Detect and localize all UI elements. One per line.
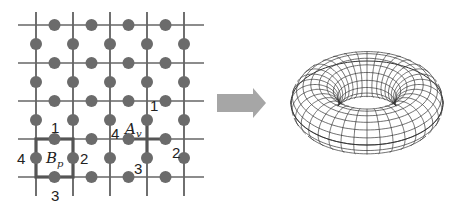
qubit-dot [178,38,190,50]
qubit-dot [141,114,153,126]
qubit-dot [104,38,116,50]
qubit-dot [123,19,135,31]
plaquette-operator-subscript: p [57,158,64,169]
qubit-dot [123,95,135,107]
vertex-label-3: 3 [134,160,142,177]
qubit-dot [86,95,98,107]
qubit-dot [141,152,153,164]
qubit-dot [49,95,61,107]
qubit-dot [49,19,61,31]
plaquette-operator-name: B [45,149,57,167]
torus-mesh-line [393,101,426,141]
qubit-dot [178,114,190,126]
vertex-label-4: 4 [111,125,119,142]
plaquette-label-3: 3 [51,187,59,204]
qubit-dot [160,95,172,107]
qubit-dot [123,171,135,183]
vertex-label-1: 1 [150,97,158,114]
qubit-dot [160,19,172,31]
vertex-label-2: 2 [172,144,180,161]
qubit-dot [141,76,153,88]
qubit-dot [160,133,172,145]
toric-code-diagram: 1 2 3 4 B p 1 2 3 4 A v [0,0,458,210]
qubit-dot [123,57,135,69]
qubit-dot [67,76,79,88]
qubit-dot [30,152,42,164]
qubit-dot [160,57,172,69]
qubit-dot [86,57,98,69]
qubit-dot [67,38,79,50]
qubit-dot [67,152,79,164]
vertex-operator-subscript: v [136,128,142,139]
qubit-dot [49,57,61,69]
plaquette-label-2: 2 [80,150,88,167]
qubit-dot [86,19,98,31]
torus-wireframe [291,52,443,155]
qubit-dot [49,171,61,183]
plaquette-label-4: 4 [17,150,25,167]
plaquette-label-1: 1 [51,119,59,136]
vertex-operator-name: A [123,120,136,138]
qubit-dot [104,76,116,88]
qubit-dot [178,76,190,88]
qubit-dot [30,38,42,50]
qubit-dot [67,114,79,126]
qubit-dot [30,76,42,88]
qubit-dot [86,133,98,145]
qubit-dot [30,114,42,126]
qubit-dot [86,171,98,183]
qubit-dot [141,38,153,50]
qubit-dot [104,152,116,164]
qubit-dot [160,171,172,183]
arrow-right-icon [217,88,266,118]
torus-mesh-line [309,101,342,141]
